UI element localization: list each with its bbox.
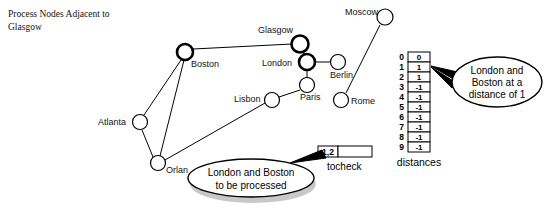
distances-value-4: -1 — [415, 93, 423, 102]
edge-orlando-lisbon — [165, 103, 265, 160]
node-circle-orlando[interactable] — [151, 156, 166, 171]
node-berlin[interactable]: Berlin — [330, 55, 353, 81]
node-label-berlin: Berlin — [330, 70, 353, 80]
node-label-london: London — [262, 58, 292, 68]
node-label-rome: Rome — [351, 96, 375, 106]
edge-boston-atlanta — [144, 60, 181, 115]
node-atlanta[interactable]: Atlanta — [98, 115, 148, 130]
graph-edges — [142, 25, 380, 160]
node-circle-paris[interactable] — [300, 78, 315, 93]
caption-line-1: Process Nodes Adjacent to — [8, 9, 110, 19]
edge-paris-lisbon — [279, 90, 300, 97]
distances-index-9: 9 — [399, 142, 404, 152]
node-label-boston: Boston — [191, 59, 219, 69]
node-circle-atlanta[interactable] — [133, 115, 148, 130]
node-circle-boston[interactable] — [177, 44, 193, 60]
callout-process-pointer — [290, 150, 326, 163]
figure-canvas: Process Nodes Adjacent to Glasgow Glasgo… — [0, 0, 545, 208]
node-circle-glasgow[interactable] — [292, 36, 309, 53]
callout-process-line-2: to be processed — [215, 180, 286, 191]
node-label-atlanta: Atlanta — [98, 117, 126, 127]
distances-index-5: 5 — [399, 102, 404, 112]
distances-index-4: 4 — [399, 92, 404, 102]
distances-index-0: 0 — [399, 52, 404, 62]
callout-process-bubble — [188, 159, 314, 197]
edge-moscow-rome — [346, 25, 380, 93]
distances-index-3: 3 — [399, 82, 404, 92]
distances-index-8: 8 — [399, 132, 404, 142]
callout-distance-line-2: Boston at a — [472, 77, 523, 88]
distances-value-7: -1 — [415, 123, 423, 132]
edge-boston-glasgow — [193, 44, 292, 49]
node-london[interactable]: London — [262, 54, 315, 70]
callout-distance-line-3: distance of 1 — [469, 89, 526, 100]
node-circle-moscow[interactable] — [377, 9, 393, 25]
edge-atlanta-orlando — [142, 130, 153, 157]
node-lisbon[interactable]: Lisbon — [234, 93, 280, 108]
tocheck-label: tocheck — [327, 161, 362, 172]
distances-value-3: -1 — [415, 83, 423, 92]
tocheck-cell-empty[interactable] — [338, 146, 372, 157]
distances-value-5: -1 — [415, 103, 423, 112]
node-circle-berlin[interactable] — [331, 55, 346, 70]
node-label-moscow: Moscow — [345, 7, 379, 17]
distances-value-9: -1 — [415, 143, 423, 152]
callout-process: London and Boston to be processed — [188, 150, 326, 203]
figure-caption: Process Nodes Adjacent to Glasgow — [8, 9, 110, 32]
node-circle-lisbon[interactable] — [265, 93, 280, 108]
distances-index-1: 1 — [399, 62, 404, 72]
node-moscow[interactable]: Moscow — [345, 7, 393, 25]
callout-distance: London and Boston at a distance of 1 — [431, 57, 542, 107]
node-circle-london[interactable] — [299, 54, 315, 70]
node-label-paris: Paris — [300, 92, 321, 102]
distances-value-6: -1 — [415, 113, 423, 122]
distances-value-1: 1 — [417, 63, 422, 72]
node-glasgow[interactable]: Glasgow — [258, 25, 309, 53]
node-label-orlando: Orlan — [166, 165, 188, 175]
callout-distance-line-1: London and — [471, 65, 524, 76]
edge-boston-orlando — [160, 60, 184, 156]
distances-caption: distances — [397, 156, 441, 168]
distances-value-8: -1 — [415, 133, 423, 142]
node-circle-rome[interactable] — [334, 93, 349, 108]
node-paris[interactable]: Paris — [300, 78, 322, 103]
node-label-glasgow: Glasgow — [258, 25, 294, 35]
tocheck-queue: 1,2 tocheck — [318, 146, 372, 172]
distances-index-7: 7 — [399, 122, 404, 132]
node-label-lisbon: Lisbon — [234, 94, 261, 104]
node-rome[interactable]: Rome — [334, 93, 376, 108]
caption-line-2: Glasgow — [8, 22, 42, 32]
node-orlando[interactable]: Orlan — [151, 156, 189, 176]
distances-value-2: 1 — [417, 73, 422, 82]
distances-index-2: 2 — [399, 72, 404, 82]
callout-process-line-1: London and Boston — [208, 167, 295, 178]
distances-value-0: 0 — [417, 53, 422, 62]
distances-index-6: 6 — [399, 112, 404, 122]
